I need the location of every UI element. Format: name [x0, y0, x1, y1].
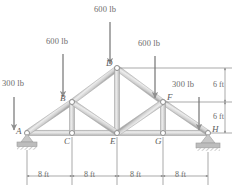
load-label-D: 600 lb: [94, 4, 116, 14]
member-A-B: [25, 100, 73, 135]
joint-label-A: A: [16, 126, 22, 136]
joint-pin-D: [115, 66, 120, 71]
load-label-A: 300 lb: [2, 78, 24, 88]
member-D-E: [114, 68, 119, 133]
pin-hatch-A: [17, 147, 37, 150]
load-label-H: 300 lb: [172, 79, 194, 89]
joint-pin-G: [161, 131, 166, 136]
dim-label-height-lower: 6 ft: [213, 112, 224, 121]
joint-pin-F: [161, 100, 166, 105]
joint-label-E: E: [110, 136, 116, 146]
roller-hatch-H: [196, 148, 220, 151]
joint-pin-C: [70, 131, 75, 136]
dim-label-height-upper: 6 ft: [213, 80, 224, 89]
joint-label-D: D: [106, 58, 113, 68]
vertical-web-members: [69, 68, 165, 133]
dim-label-span-gh: 8 ft: [175, 170, 186, 179]
joint-pin-B: [70, 100, 75, 105]
dim-label-span-eg: 8 ft: [130, 170, 141, 179]
dim-label-span-ac: 8 ft: [38, 170, 49, 179]
joint-label-G: G: [155, 136, 162, 146]
joint-label-B: B: [60, 93, 66, 103]
truss-diagram-figure: 300 lb 600 lb 600 lb 600 lb 300 lb A B C…: [0, 0, 238, 191]
joint-label-F: F: [167, 92, 173, 102]
pin-base-A: [17, 142, 37, 147]
member-B-D: [70, 66, 119, 104]
support-H-roller: [196, 134, 220, 151]
support-A-pin: [17, 134, 37, 150]
dim-label-span-ce: 8 ft: [84, 170, 95, 179]
load-label-B: 600 lb: [46, 36, 68, 46]
member-D-F: [115, 66, 164, 104]
joint-pin-E: [115, 131, 120, 136]
load-label-F: 600 lb: [138, 38, 160, 48]
roller-base-H: [196, 143, 220, 148]
joint-label-H: H: [212, 124, 219, 134]
truss-drawing-canvas: [0, 0, 238, 191]
joint-label-C: C: [64, 136, 70, 146]
